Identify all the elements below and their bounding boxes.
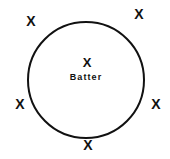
fielder-x-marker-top-left: X [26, 14, 35, 28]
fielder-x-marker-bottom: X [83, 138, 92, 152]
fielder-x-marker-top-right: X [134, 7, 143, 21]
fielding-diagram: X Batter X X X X X [0, 0, 170, 159]
fielder-x-marker-left: X [15, 97, 24, 111]
batter-x-marker: X [83, 56, 92, 69]
batter-label: Batter [70, 73, 103, 82]
fielder-x-marker-right: X [151, 97, 160, 111]
